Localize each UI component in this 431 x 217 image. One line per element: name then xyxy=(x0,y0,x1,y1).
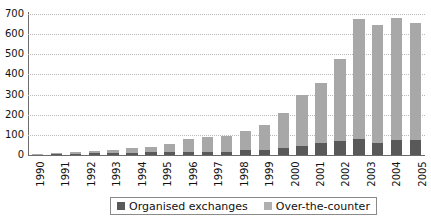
stacked-bar xyxy=(126,148,137,155)
bar-group xyxy=(28,14,425,155)
bar-slot xyxy=(406,14,425,155)
legend-label-over-the-counter: Over-the-counter xyxy=(276,201,370,212)
legend-item-organised-exchanges: Organised exchanges xyxy=(117,201,248,212)
bar-slot xyxy=(160,14,179,155)
bar-segment-over-the-counter xyxy=(221,136,232,152)
stacked-bar xyxy=(296,95,307,155)
bar-slot xyxy=(274,14,293,155)
legend-swatch-light-icon xyxy=(264,202,272,210)
bar-slot xyxy=(331,14,350,155)
stacked-bar xyxy=(391,18,402,155)
x-tick-slot: 1992 xyxy=(79,157,104,195)
x-axis-tick-label: 2000 xyxy=(290,161,300,186)
x-axis-tick-label: 1991 xyxy=(61,161,71,186)
bar-slot xyxy=(293,14,312,155)
y-axis-tick-label: 200 xyxy=(0,110,24,120)
bar-segment-over-the-counter xyxy=(202,137,213,152)
y-axis-tick-label: 700 xyxy=(0,9,24,19)
x-tick-slot: 2005 xyxy=(410,157,431,195)
bar-slot xyxy=(217,14,236,155)
x-axis-tick-label: 2002 xyxy=(341,161,351,186)
bar-slot xyxy=(47,14,66,155)
legend-item-over-the-counter: Over-the-counter xyxy=(264,201,370,212)
bar-segment-organised-exchanges xyxy=(372,143,383,155)
bar-segment-over-the-counter xyxy=(410,23,421,140)
plot-area xyxy=(28,14,425,155)
stacked-bar xyxy=(259,125,270,155)
x-axis-tick-label: 2001 xyxy=(316,161,326,186)
x-axis-tick-label: 1992 xyxy=(87,161,97,186)
bar-segment-organised-exchanges xyxy=(353,139,364,155)
x-axis-tick-label: 1995 xyxy=(163,161,173,186)
bar-segment-organised-exchanges xyxy=(278,148,289,155)
bar-segment-over-the-counter xyxy=(259,125,270,151)
bar-segment-over-the-counter xyxy=(391,18,402,140)
bar-segment-over-the-counter xyxy=(164,144,175,152)
x-tick-slot: 2001 xyxy=(308,157,333,195)
stacked-bar xyxy=(164,144,175,155)
bar-slot xyxy=(123,14,142,155)
bar-segment-organised-exchanges xyxy=(296,146,307,155)
x-tick-slot: 1993 xyxy=(104,157,129,195)
bar-slot xyxy=(198,14,217,155)
bar-segment-over-the-counter xyxy=(334,59,345,141)
stacked-bar xyxy=(315,83,326,155)
chart-legend: Organised exchanges Over-the-counter xyxy=(110,197,377,215)
x-tick-slot: 2002 xyxy=(333,157,358,195)
y-axis-tick-label: 500 xyxy=(0,49,24,59)
bar-slot xyxy=(66,14,85,155)
bar-segment-organised-exchanges xyxy=(334,141,345,155)
bar-slot xyxy=(28,14,47,155)
y-axis-tick-label: 400 xyxy=(0,69,24,79)
bar-segment-over-the-counter xyxy=(372,25,383,144)
x-tick-slot: 1995 xyxy=(155,157,180,195)
x-axis-tick-labels: 1990199119921993199419951996199719981999… xyxy=(28,157,425,195)
x-tick-slot: 2003 xyxy=(359,157,384,195)
stacked-bar xyxy=(240,131,251,155)
x-axis-tick-label: 1999 xyxy=(265,161,275,186)
x-axis-tick-label: 1994 xyxy=(138,161,148,186)
x-axis-tick-label: 1998 xyxy=(239,161,249,186)
y-axis-tick-label: 100 xyxy=(0,130,24,140)
bar-segment-organised-exchanges xyxy=(391,140,402,155)
bar-segment-organised-exchanges xyxy=(410,140,421,155)
bar-slot xyxy=(141,14,160,155)
x-tick-slot: 1998 xyxy=(232,157,257,195)
x-tick-slot: 2000 xyxy=(283,157,308,195)
x-axis-line xyxy=(28,155,425,156)
legend-label-organised-exchanges: Organised exchanges xyxy=(129,201,248,212)
stacked-bar-chart: 0100200300400500600700 19901991199219931… xyxy=(0,0,431,217)
stacked-bar xyxy=(334,59,345,155)
stacked-bar xyxy=(353,19,364,155)
bar-slot xyxy=(85,14,104,155)
bar-segment-over-the-counter xyxy=(315,83,326,143)
bar-segment-over-the-counter xyxy=(353,19,364,138)
bar-slot xyxy=(312,14,331,155)
bar-slot xyxy=(236,14,255,155)
x-axis-tick-label: 1997 xyxy=(214,161,224,186)
bar-slot xyxy=(255,14,274,155)
legend-swatch-dark-icon xyxy=(117,202,125,210)
stacked-bar xyxy=(183,139,194,155)
x-axis-tick-label: 2004 xyxy=(392,161,402,186)
x-axis-tick-label: 1993 xyxy=(112,161,122,186)
bar-slot xyxy=(368,14,387,155)
bar-segment-over-the-counter xyxy=(278,113,289,147)
x-axis-tick-label: 2005 xyxy=(418,161,428,186)
bar-slot xyxy=(349,14,368,155)
x-tick-slot: 1999 xyxy=(257,157,282,195)
x-tick-slot: 2004 xyxy=(384,157,409,195)
stacked-bar xyxy=(221,136,232,155)
stacked-bar xyxy=(145,147,156,155)
x-tick-slot: 1994 xyxy=(130,157,155,195)
x-tick-slot: 1997 xyxy=(206,157,231,195)
stacked-bar xyxy=(202,137,213,155)
bar-segment-over-the-counter xyxy=(296,95,307,145)
y-axis-tick-label: 300 xyxy=(0,90,24,100)
bar-segment-over-the-counter xyxy=(240,131,251,150)
bar-segment-over-the-counter xyxy=(183,139,194,152)
x-tick-slot: 1990 xyxy=(28,157,53,195)
x-tick-slot: 1991 xyxy=(53,157,78,195)
y-axis-tick-label: 600 xyxy=(0,29,24,39)
x-axis-tick-label: 2003 xyxy=(367,161,377,186)
